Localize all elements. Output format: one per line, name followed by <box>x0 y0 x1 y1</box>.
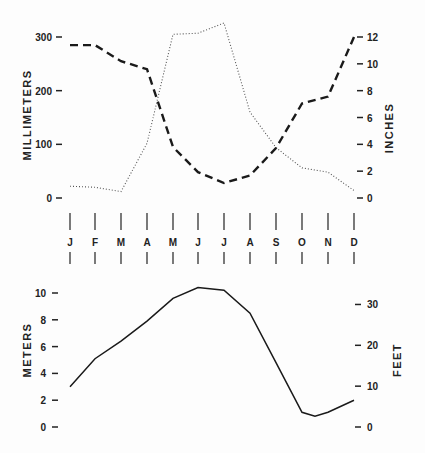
month-label: M <box>169 237 177 248</box>
y-tick-label: 300 <box>35 32 52 43</box>
y-right-tick-label: 20 <box>367 340 379 351</box>
y-right-tick-label: 30 <box>367 299 379 310</box>
solid-series-line <box>70 288 354 417</box>
y-right-axis-title: INCHES <box>383 103 395 154</box>
y-axis-title: METERS <box>21 323 33 378</box>
y-tick-label: 200 <box>35 86 52 97</box>
month-label: S <box>273 237 280 248</box>
y-right-tick-label: 2 <box>367 166 373 177</box>
y-right-tick-label: 8 <box>367 86 373 97</box>
y-right-tick-label: 0 <box>367 422 373 433</box>
month-axis: JFMAMJJASOND <box>67 213 357 264</box>
y-right-tick-label: 4 <box>367 139 373 150</box>
y-right-axis-title: FEET <box>391 343 403 377</box>
month-label: D <box>350 237 357 248</box>
month-label: M <box>117 237 125 248</box>
y-right-tick-label: 12 <box>367 32 379 43</box>
y-tick-label: 100 <box>35 139 52 150</box>
y-right-tick-label: 6 <box>367 113 373 124</box>
y-right-tick-label: 10 <box>367 59 379 70</box>
y-tick-label: 10 <box>35 288 47 299</box>
month-label: F <box>92 237 98 248</box>
y-axis-title: MILLIMETERS <box>21 69 33 160</box>
month-label: O <box>298 237 306 248</box>
month-label: J <box>221 237 227 248</box>
dashed-series-line <box>70 37 354 183</box>
month-label: A <box>143 237 150 248</box>
y-tick-label: 8 <box>40 315 46 326</box>
y-tick-label: 0 <box>40 422 46 433</box>
water-level-chart: 02468100102030METERSFEET <box>21 288 403 433</box>
month-label: J <box>67 237 73 248</box>
month-label: J <box>195 237 201 248</box>
y-tick-label: 6 <box>40 342 46 353</box>
month-label: N <box>324 237 331 248</box>
hydrology-chart: 0100200300024681012MILLIMETERSINCHES JFM… <box>0 0 425 453</box>
y-right-tick-label: 10 <box>367 381 379 392</box>
dotted-series-line <box>70 23 354 192</box>
y-tick-label: 4 <box>40 368 46 379</box>
y-tick-label: 2 <box>40 395 46 406</box>
y-right-tick-label: 0 <box>367 193 373 204</box>
month-label: A <box>246 237 253 248</box>
y-tick-label: 0 <box>46 193 52 204</box>
precipitation-chart: 0100200300024681012MILLIMETERSINCHES <box>21 23 395 204</box>
